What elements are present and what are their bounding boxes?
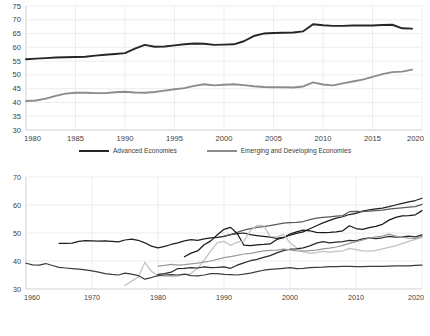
x-tick-label: 2000 [216,134,233,143]
x-tick-label: 1995 [166,134,183,143]
top-chart-svg: 3035404550556065707519801985199019952000… [0,0,430,146]
x-tick-label: 1960 [24,293,40,302]
y-tick-label: 40 [13,98,21,107]
x-tick-label: 1980 [24,134,41,143]
legend-label: Advanced Economies [113,146,177,157]
legend-item[interactable]: Emerging and Developing Economies [207,146,351,157]
x-tick-label: 2015 [364,134,381,143]
y-tick-label: 65 [13,29,21,38]
series-line [184,211,422,257]
y-tick-label: 35 [13,112,21,121]
top-chart-legend: Advanced EconomiesEmerging and Developin… [0,146,430,157]
y-tick-label: 55 [13,57,21,66]
x-tick-label: 2005 [265,134,282,143]
bottom-plot-area: 30405060701960197019801990200020102020 [0,172,430,304]
series-line [224,204,422,236]
x-tick-label: 2010 [315,134,332,143]
x-tick-label: 2020 [408,293,424,302]
chart-page: 3035404550556065707519801985199019952000… [0,0,430,336]
y-tick-label: 45 [13,84,21,93]
legend-line-swatch [79,150,109,152]
bottom-chart-svg: 30405060701960197019801990200020102020 [0,172,430,304]
series-line [26,24,412,59]
y-tick-label: 50 [13,229,21,238]
y-tick-label: 60 [13,201,21,210]
x-tick-label: 2020 [407,134,424,143]
x-tick-label: 1985 [67,134,84,143]
x-tick-label: 1970 [84,293,100,302]
bottom-line-chart: 30405060701960197019801990200020102020 E… [0,172,430,336]
y-tick-label: 50 [13,70,21,79]
legend-item[interactable]: Advanced Economies [79,146,177,157]
x-tick-label: 1990 [216,293,232,302]
top-plot-area: 3035404550556065707519801985199019952000… [0,0,430,146]
y-tick-label: 70 [13,173,21,182]
x-tick-label: 2000 [282,293,298,302]
legend-label: Emerging and Developing Economies [241,146,351,157]
series-line [26,70,412,101]
series-line [125,225,422,285]
y-tick-label: 40 [13,257,21,266]
y-tick-label: 30 [13,285,21,294]
legend-line-swatch [207,150,237,152]
y-tick-label: 70 [13,15,21,24]
y-tick-label: 75 [13,2,21,11]
x-tick-label: 1980 [150,293,166,302]
top-line-chart: 3035404550556065707519801985199019952000… [0,0,430,172]
x-tick-label: 1990 [117,134,134,143]
y-tick-label: 30 [13,126,21,135]
y-tick-label: 60 [13,43,21,52]
x-tick-label: 2010 [348,293,364,302]
